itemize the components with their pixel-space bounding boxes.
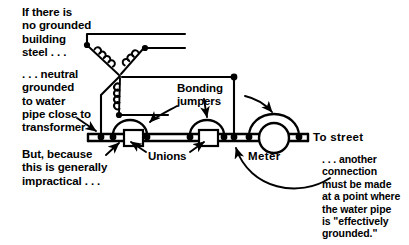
arrow-but-impractical — [106, 143, 119, 155]
grounding-electrode-conductor-left — [101, 76, 120, 136]
annotation-no-building-steel: If there is no grounded building steel .… — [22, 6, 91, 59]
arrow-bonding-jumper-meter — [245, 96, 272, 112]
label-bonding-jumpers: Bonding jumpers — [177, 82, 223, 109]
annotation-another-connection: . . . another connection must be made at… — [322, 153, 400, 240]
label-unions: Unions — [148, 150, 186, 163]
label-to-street: To street — [313, 131, 363, 144]
label-meter: Meter — [248, 150, 281, 163]
annotation-but-impractical: But, because this is generally impractic… — [22, 148, 107, 188]
annotation-neutral-grounded: . . . neutral grounded to water pipe clo… — [22, 68, 91, 135]
water-meter-body — [259, 123, 289, 153]
phase-c-coil — [114, 78, 120, 114]
phase-b-coil — [121, 49, 143, 74]
service-conductor-top — [87, 34, 185, 45]
phase-a-coil — [89, 47, 119, 75]
figure-canvas: If there is no grounded building steel .… — [0, 0, 409, 245]
